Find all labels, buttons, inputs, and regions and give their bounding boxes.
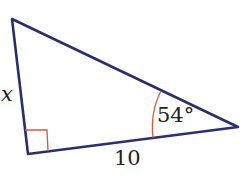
triangle-diagram: x 54° 10 (0, 0, 244, 180)
triangle-outline (12, 19, 238, 154)
angle-label: 54° (157, 103, 194, 127)
side-label-x: x (1, 82, 13, 106)
side-label-base: 10 (114, 146, 141, 170)
